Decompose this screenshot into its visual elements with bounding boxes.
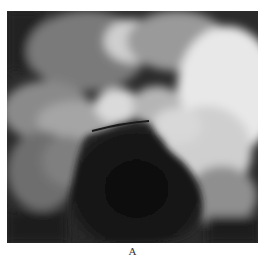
figure-caption: A [0,245,265,257]
endoscopic-image [7,11,258,243]
endoscopy-illustration [7,11,258,243]
